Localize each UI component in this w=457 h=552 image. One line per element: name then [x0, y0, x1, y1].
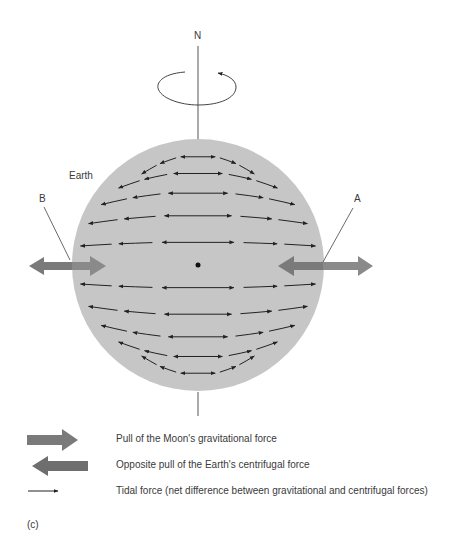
centrifugal-force-arrow-b	[29, 257, 72, 275]
force-arrows-b	[29, 256, 106, 276]
legend-label-centrifugal: Opposite pull of the Earth's centrifugal…	[116, 459, 310, 470]
point-a-label: A	[354, 193, 361, 204]
panel-label: (c)	[27, 519, 39, 530]
pointer-line-a	[323, 208, 353, 262]
tidal-force-diagram: N Earth B A Pull of the Moon's gravitati…	[0, 0, 457, 552]
north-label: N	[194, 30, 201, 41]
force-arrows-a	[278, 256, 373, 276]
legend-label-gravitational: Pull of the Moon's gravitational force	[116, 433, 277, 444]
legend-centrifugal-arrow-icon	[32, 456, 88, 476]
earth-center-dot	[196, 263, 201, 268]
point-b-label: B	[39, 193, 46, 204]
legend-label-tidal: Tidal force (net difference between grav…	[116, 485, 428, 496]
pointer-line-b	[44, 207, 70, 260]
legend-gravitational-arrow-icon	[27, 429, 78, 451]
gravitational-force-arrow-a	[323, 256, 373, 276]
earth-label: Earth	[69, 170, 93, 181]
rotation-icon	[158, 72, 236, 105]
